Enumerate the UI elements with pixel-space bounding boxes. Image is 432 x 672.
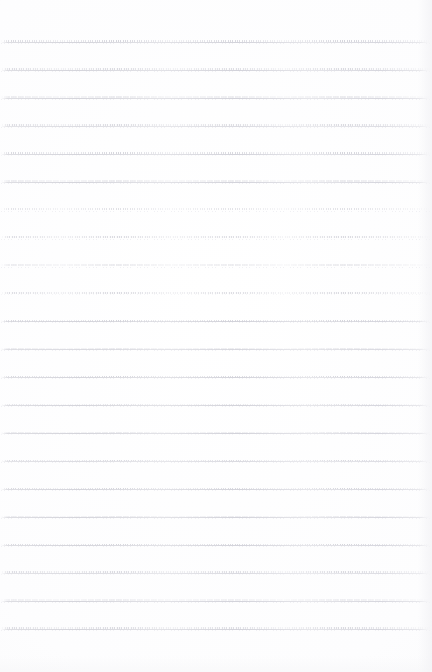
ruled-line-tick-texture [1,124,430,126]
ruled-line-ghost [1,155,430,156]
ruled-line-ghost [1,294,430,295]
ruled-line-tick-texture [1,152,430,154]
ruled-line-stroke [1,545,430,546]
ruled-line [1,96,430,99]
ruled-line-tick-texture [1,432,430,434]
ruled-line-ghost [1,378,430,379]
ruled-line-stroke [1,42,430,43]
ruled-line-ghost [1,546,430,547]
ruled-line-ghost [1,211,430,212]
scanned-page [0,0,432,672]
ruled-line-stroke [1,266,430,267]
ruled-line [1,208,430,211]
ruled-line-ghost [1,322,430,323]
ruled-line-tick-texture [1,571,430,573]
ruled-line [1,627,430,630]
ruled-line-stroke [1,405,430,406]
ruled-line-ghost [1,630,430,631]
ruled-line-stroke [1,238,430,239]
ruled-line-stroke [1,601,430,602]
ruled-line-ghost [1,518,430,519]
ruled-line-ghost [1,434,430,435]
ruled-line-ghost [1,462,430,463]
ruled-line [1,599,430,602]
ruled-line [1,488,430,491]
ruled-line-stroke [1,573,430,574]
ruled-line [1,264,430,267]
ruled-line [1,404,430,407]
ruled-line-stroke [1,461,430,462]
ruled-line [1,571,430,574]
ruled-line [1,236,430,239]
ruled-line-ghost [1,490,430,491]
ruled-line-ghost [1,239,430,240]
ruled-line-ghost [1,71,430,72]
ruled-line [1,432,430,435]
ruled-line [1,544,430,547]
ruled-line-ghost [1,127,430,128]
ruled-line-tick-texture [1,208,430,210]
ruled-line [1,292,430,295]
ruled-line [1,376,430,379]
ruled-line-stroke [1,517,430,518]
ruled-line [1,180,430,183]
ruled-line-tick-texture [1,40,430,42]
ruled-line-stroke [1,349,430,350]
ruled-line-tick-texture [1,599,430,601]
ruled-line-tick-texture [1,320,430,322]
ruled-line [1,40,430,43]
ruled-line-stroke [1,154,430,155]
ruled-line-stroke [1,489,430,490]
ruled-line-tick-texture [1,627,430,629]
ruled-line-tick-texture [1,264,430,266]
ruled-line [1,320,430,323]
ruled-line [1,152,430,155]
ruled-line-stroke [1,98,430,99]
ruled-line-tick-texture [1,544,430,546]
ruled-line-tick-texture [1,348,430,350]
ruled-line-tick-texture [1,404,430,406]
ruled-line-ghost [1,574,430,575]
ruled-line-ghost [1,406,430,407]
ruled-line-tick-texture [1,516,430,518]
ruled-line-stroke [1,629,430,630]
ruled-line [1,348,430,351]
ruled-line-tick-texture [1,488,430,490]
ruled-line [1,516,430,519]
ruled-line-tick-texture [1,236,430,238]
ruled-line-ghost [1,99,430,100]
ruled-line-stroke [1,294,430,295]
ruled-line-ghost [1,602,430,603]
ruled-line-tick-texture [1,460,430,462]
ruled-line-tick-texture [1,68,430,70]
ruled-line [1,460,430,463]
ruled-line-stroke [1,433,430,434]
ruled-line-stroke [1,377,430,378]
ruled-lines-layer [0,0,432,672]
ruled-line [1,68,430,71]
ruled-line [1,124,430,127]
ruled-line-tick-texture [1,96,430,98]
ruled-line-stroke [1,182,430,183]
ruled-line-stroke [1,70,430,71]
ruled-line-ghost [1,183,430,184]
ruled-line-ghost [1,267,430,268]
ruled-line-stroke [1,321,430,322]
ruled-line-tick-texture [1,292,430,294]
ruled-line-ghost [1,43,430,44]
ruled-line-ghost [1,350,430,351]
ruled-line-tick-texture [1,376,430,378]
ruled-line-stroke [1,210,430,211]
ruled-line-stroke [1,126,430,127]
ruled-line-tick-texture [1,180,430,182]
